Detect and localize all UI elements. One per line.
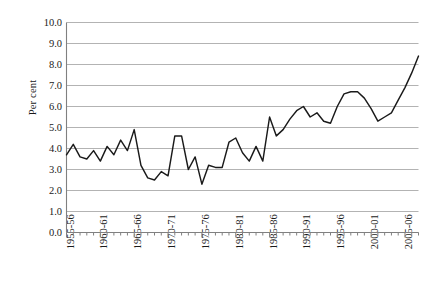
plot-area xyxy=(0,0,438,307)
x-axis-minor-ticks xyxy=(67,233,419,238)
chart-container: Per cent 10.09.08.07.06.05.04.03.02.01.0… xyxy=(0,0,438,307)
gridlines xyxy=(67,23,419,233)
data-series-line xyxy=(67,56,419,184)
